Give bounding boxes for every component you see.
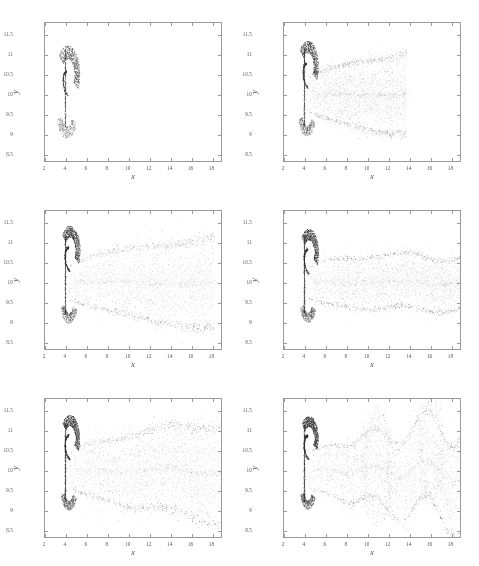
y-tick-label: 9.5 xyxy=(6,111,13,117)
y-tick xyxy=(284,223,287,224)
y-tick-label: 10.5 xyxy=(243,71,252,77)
x-tick-top xyxy=(305,211,306,214)
y-tick-right xyxy=(457,431,460,432)
scatter-canvas-1 xyxy=(45,23,221,161)
x-tick-top xyxy=(326,399,327,402)
scatter-canvas-5 xyxy=(45,399,221,537)
y-tick xyxy=(45,263,48,264)
x-tick xyxy=(347,534,348,537)
x-tick xyxy=(431,346,432,349)
y-tick xyxy=(45,75,48,76)
x-tick-label: 12 xyxy=(385,165,390,171)
x-tick-top xyxy=(213,399,214,402)
x-tick-label: 10 xyxy=(125,541,130,547)
y-tick-label: 9.5 xyxy=(245,487,252,493)
x-tick-label: 14 xyxy=(167,541,172,547)
x-tick-top xyxy=(66,211,67,214)
y-tick-right xyxy=(218,95,221,96)
y-tick-label: 9 xyxy=(249,319,252,325)
x-tick-top xyxy=(213,23,214,26)
x-tick-top xyxy=(150,211,151,214)
x-tick-label: 10 xyxy=(364,353,369,359)
x-tick-label: 8 xyxy=(344,541,347,547)
x-tick xyxy=(368,534,369,537)
x-tick xyxy=(284,346,285,349)
x-tick-top xyxy=(171,23,172,26)
plot-frame-5 xyxy=(44,398,222,538)
x-tick-label: 6 xyxy=(85,353,88,359)
x-tick-top xyxy=(452,23,453,26)
y-tick-right xyxy=(218,243,221,244)
y-tick-right xyxy=(218,75,221,76)
x-tick xyxy=(192,346,193,349)
x-tick-label: 10 xyxy=(125,165,130,171)
y-axis-label: y xyxy=(11,466,20,470)
y-tick xyxy=(45,35,48,36)
x-tick-label: 12 xyxy=(146,541,151,547)
y-tick-label: 9.5 xyxy=(6,487,13,493)
plot-frame-2 xyxy=(283,22,461,162)
x-tick-label: 18 xyxy=(209,165,214,171)
x-tick xyxy=(284,534,285,537)
y-tick-label: 9 xyxy=(10,131,13,137)
y-tick-right xyxy=(457,343,460,344)
x-tick xyxy=(389,346,390,349)
x-tick-top xyxy=(284,23,285,26)
y-tick xyxy=(284,135,287,136)
x-axis-label: x xyxy=(131,360,135,369)
y-tick-label: 8.5 xyxy=(6,339,13,345)
x-tick xyxy=(326,158,327,161)
y-tick xyxy=(284,243,287,244)
x-tick-label: 2 xyxy=(282,165,285,171)
x-tick xyxy=(305,158,306,161)
x-tick xyxy=(192,534,193,537)
plot-frame-4 xyxy=(283,210,461,350)
x-tick-top xyxy=(326,211,327,214)
scatter-canvas-3 xyxy=(45,211,221,349)
x-tick-top xyxy=(389,399,390,402)
x-tick-label: 6 xyxy=(324,353,327,359)
x-tick xyxy=(171,346,172,349)
x-tick-top xyxy=(452,399,453,402)
x-tick-top xyxy=(410,399,411,402)
y-tick xyxy=(45,471,48,472)
y-tick-right xyxy=(457,35,460,36)
x-tick-label: 2 xyxy=(282,353,285,359)
y-tick-right xyxy=(218,55,221,56)
x-tick-label: 6 xyxy=(85,541,88,547)
y-tick-right xyxy=(457,243,460,244)
x-tick xyxy=(389,534,390,537)
x-tick xyxy=(326,346,327,349)
x-tick xyxy=(108,534,109,537)
y-tick-right xyxy=(218,431,221,432)
x-tick xyxy=(45,158,46,161)
x-tick-top xyxy=(368,399,369,402)
y-tick xyxy=(45,115,48,116)
y-tick-right xyxy=(457,75,460,76)
x-tick-label: 16 xyxy=(427,165,432,171)
x-tick-label: 2 xyxy=(282,541,285,547)
y-tick-label: 9 xyxy=(249,507,252,513)
y-tick-label: 11 xyxy=(8,51,13,57)
y-tick-label: 11.5 xyxy=(243,219,252,225)
y-tick xyxy=(284,283,287,284)
y-tick xyxy=(45,223,48,224)
y-tick-right xyxy=(457,303,460,304)
y-tick-right xyxy=(218,531,221,532)
x-tick-top xyxy=(305,399,306,402)
scatter-panel-5: 246810121416188.599.51010.51111.5xy xyxy=(0,376,239,564)
x-tick-top xyxy=(326,23,327,26)
y-tick-label: 11 xyxy=(247,51,252,57)
x-tick xyxy=(171,158,172,161)
y-tick xyxy=(45,451,48,452)
x-tick-top xyxy=(129,211,130,214)
x-tick-top xyxy=(45,211,46,214)
x-tick xyxy=(108,158,109,161)
scatter-panel-2: 246810121416188.599.51010.51111.5xy xyxy=(239,0,478,188)
x-tick-label: 18 xyxy=(448,165,453,171)
x-tick-label: 4 xyxy=(303,353,306,359)
x-tick-top xyxy=(87,23,88,26)
x-tick-label: 14 xyxy=(406,541,411,547)
x-axis-label: x xyxy=(370,548,374,557)
y-tick-label: 10.5 xyxy=(243,259,252,265)
